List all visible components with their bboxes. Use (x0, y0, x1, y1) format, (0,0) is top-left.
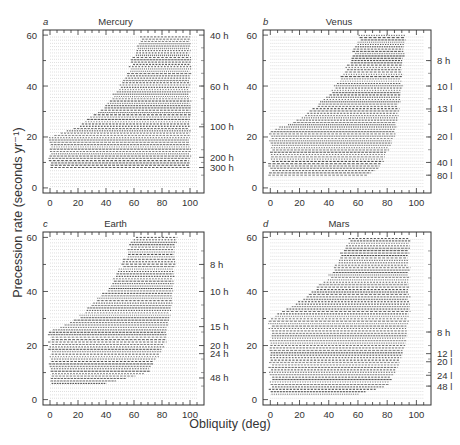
period-label: 60 h (210, 81, 229, 92)
x-tick-label: 20 (294, 197, 305, 208)
panel-letter: a (43, 16, 48, 27)
y-axis-label: Precession rate (seconds yr⁻¹) (10, 118, 25, 308)
period-label: 24 l (437, 370, 452, 381)
period-label: 100 h (210, 121, 234, 132)
y-tick-label: 40 (26, 81, 37, 92)
period-label: 24 h (210, 348, 229, 359)
x-tick-label: 40 (323, 197, 334, 208)
x-tick-label: 80 (382, 197, 393, 208)
period-label: 40 l (437, 157, 452, 168)
y-tick-label: 20 (246, 340, 257, 351)
y-tick-label: 20 (246, 131, 257, 142)
period-label: 10 h (210, 286, 229, 297)
y-tick-label: 60 (26, 232, 37, 243)
x-tick-label: 0 (47, 197, 52, 208)
panel-title: Mars (328, 218, 349, 229)
y-tick-label: 60 (26, 30, 37, 41)
period-label: 8 h (437, 55, 450, 66)
panel-title: Mercury (98, 16, 133, 27)
panel-earth: 02040608010002040608 h10 h15 h20 h24 h48… (26, 218, 228, 420)
x-tick-label: 60 (129, 197, 140, 208)
axes-frame (43, 232, 204, 405)
y-tick-label: 40 (246, 286, 257, 297)
y-tick-label: 40 (246, 81, 257, 92)
y-tick-label: 60 (246, 232, 257, 243)
y-tick-label: 0 (32, 182, 37, 193)
panel-letter: b (263, 16, 268, 27)
x-tick-label: 100 (182, 197, 198, 208)
panel-title: Earth (104, 218, 127, 229)
period-label: 8 h (210, 259, 223, 270)
period-label: 80 l (437, 170, 452, 181)
period-label: 15 h (210, 321, 229, 332)
y-tick-label: 0 (32, 394, 37, 405)
period-label: 13 l (437, 103, 452, 114)
x-tick-label: 0 (268, 197, 273, 208)
x-tick-label: 40 (101, 197, 112, 208)
panel-mars: 02040608010002040608 h12 l20 l24 l48 ldM… (246, 218, 452, 420)
y-tick-label: 60 (246, 30, 257, 41)
x-tick-label: 20 (73, 197, 84, 208)
period-label: 20 l (437, 131, 452, 142)
panel-letter: c (43, 218, 48, 229)
axes-frame (43, 30, 204, 193)
y-tick-label: 0 (252, 182, 257, 193)
period-label: 20 l (437, 356, 452, 367)
x-tick-label: 100 (408, 197, 424, 208)
period-label: 10 l (437, 81, 452, 92)
y-tick-label: 20 (26, 131, 37, 142)
period-label: 48 h (210, 372, 229, 383)
period-label: 40 h (210, 30, 229, 41)
x-tick-label: 80 (157, 197, 168, 208)
period-label: 48 l (437, 381, 452, 392)
chart-canvas: 020406080100020406040 h60 h100 h200 h300… (0, 0, 460, 445)
panel-mercury: 020406080100020406040 h60 h100 h200 h300… (26, 16, 233, 208)
x-tick-label: 60 (353, 197, 364, 208)
y-tick-label: 0 (252, 394, 257, 405)
panel-venus: 02040608010002040608 h10 l13 l20 l40 l80… (246, 16, 452, 208)
period-label: 300 h (210, 162, 234, 173)
period-label: 8 h (437, 327, 450, 338)
x-axis-label: Obliquity (deg) (0, 417, 460, 431)
panel-title: Venus (326, 16, 353, 27)
panel-letter: d (263, 218, 269, 229)
y-tick-label: 40 (26, 286, 37, 297)
y-tick-label: 20 (26, 340, 37, 351)
